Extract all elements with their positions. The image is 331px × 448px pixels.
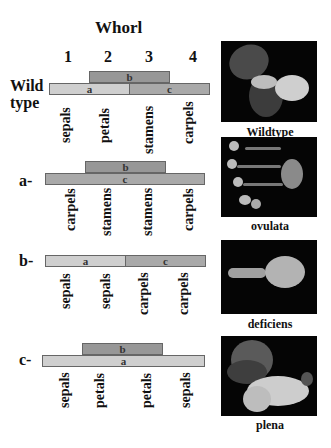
whorl-number-4: 4 <box>183 48 203 66</box>
row-label-b-mutant: b- <box>19 252 33 269</box>
row-label-c-mutant: c- <box>19 351 31 368</box>
a-function-bar: a <box>49 83 130 95</box>
organ-label-whorl-1: carpels <box>63 188 79 231</box>
organ-label-whorl-1: sepals <box>57 372 73 408</box>
deficiens-flower-photo <box>221 240 317 314</box>
b-function-bar: b <box>82 343 163 355</box>
diagram-title: Whorl <box>95 18 142 38</box>
organ-label-whorl-4: sepals <box>178 372 194 408</box>
row-label-line1: Wild <box>10 77 44 94</box>
plena-flower-photo <box>221 336 317 416</box>
whorl-number-1: 1 <box>58 48 78 66</box>
organ-label-whorl-3: stamens <box>141 106 157 154</box>
row-label-a-mutant: a- <box>19 172 32 189</box>
organ-label-whorl-4: carpels <box>181 188 197 231</box>
whorl-number-2: 2 <box>98 48 118 66</box>
organ-label-whorl-3: petals <box>139 373 155 408</box>
organ-label-whorl-4: carpels <box>181 101 197 144</box>
a-function-bar: a <box>42 355 205 367</box>
organ-label-whorl-1: sepals <box>58 107 74 143</box>
b-function-bar: b <box>85 161 166 173</box>
b-function-bar: b <box>89 71 170 83</box>
organ-label-whorl-2: sepals <box>98 273 114 309</box>
organ-label-whorl-1: sepals <box>58 273 74 309</box>
row-label-wildtype: Wild type <box>10 77 44 111</box>
organ-label-whorl-3: carpels <box>136 272 152 315</box>
c-function-bar: c <box>125 255 206 267</box>
whorl-number-3: 3 <box>139 48 159 66</box>
ovulata-flower-photo <box>221 137 317 217</box>
row-label-line2: type <box>10 94 44 111</box>
organ-label-whorl-3: stamens <box>140 188 156 236</box>
c-function-bar: c <box>45 173 205 185</box>
photo-caption-ovulata: ovulata <box>215 219 325 234</box>
photo-caption-plena: plena <box>215 418 325 433</box>
organ-label-whorl-2: petals <box>97 108 113 143</box>
organ-label-whorl-4: carpels <box>176 272 192 315</box>
organ-label-whorl-2: petals <box>92 373 108 408</box>
organ-label-whorl-2: stamens <box>99 188 115 236</box>
wildtype-flower-photo <box>221 41 317 122</box>
a-function-bar: a <box>45 255 126 267</box>
c-function-bar: c <box>129 83 210 95</box>
photo-caption-deficiens: deficiens <box>215 317 325 332</box>
